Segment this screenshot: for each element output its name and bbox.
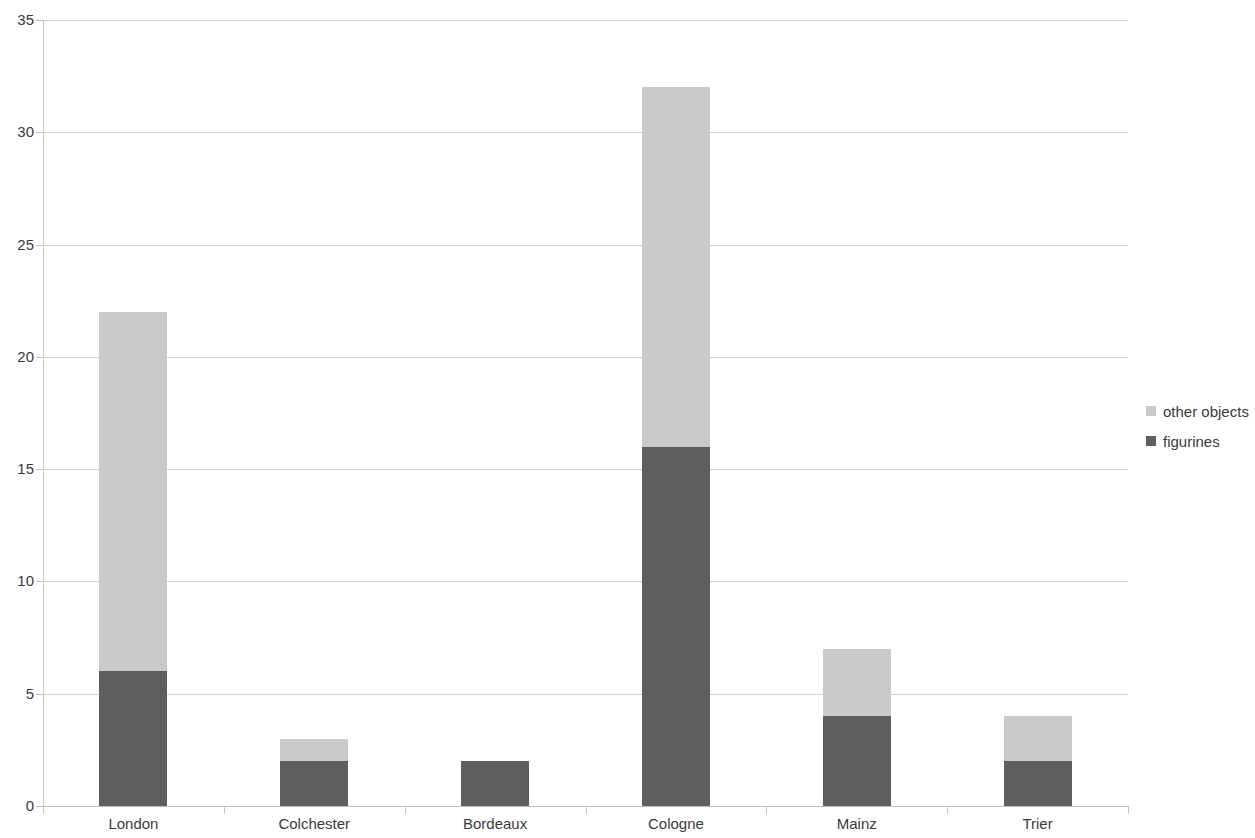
legend-item: other objects [1146, 396, 1254, 426]
bar-segment-figurines [99, 671, 167, 806]
y-axis-tick-label: 10 [17, 573, 34, 588]
bar-segment-other-objects [99, 312, 167, 671]
x-axis-tick-mark [43, 806, 44, 814]
bar-segment-other-objects [1004, 716, 1072, 761]
bar-stack [823, 20, 891, 806]
bar-segment-other-objects [823, 649, 891, 716]
bar-group [823, 20, 891, 806]
y-axis-tick-mark [36, 20, 43, 21]
bar-stack [280, 20, 348, 806]
y-axis-tick-label: 35 [17, 12, 34, 27]
x-axis-tick-mark [947, 806, 948, 814]
plot-area [43, 20, 1128, 806]
bar-segment-figurines [823, 716, 891, 806]
bar-stack [99, 20, 167, 806]
category-label: Cologne [596, 816, 756, 831]
bar-segment-other-objects [642, 87, 710, 446]
category-label: Bordeaux [415, 816, 575, 831]
y-axis-tick-label: 25 [17, 237, 34, 252]
bar-segment-figurines [642, 447, 710, 806]
bar-group [99, 20, 167, 806]
y-axis-tick-mark [36, 132, 43, 133]
bar-segment-figurines [461, 761, 529, 806]
bar-segment-other-objects [280, 739, 348, 761]
y-axis-tick-mark [36, 469, 43, 470]
y-axis-tick-mark [36, 357, 43, 358]
y-axis-tick-label: 0 [26, 798, 34, 813]
y-axis-tick-mark [36, 581, 43, 582]
x-axis-tick-mark [586, 806, 587, 814]
legend-item: figurines [1146, 426, 1254, 456]
bar-group [1004, 20, 1072, 806]
y-axis-tick-label: 20 [17, 349, 34, 364]
y-axis-tick-label: 5 [26, 686, 34, 701]
x-axis-tick-mark [766, 806, 767, 814]
y-axis-tick-label: 30 [17, 124, 34, 139]
y-axis-tick-label: 15 [17, 461, 34, 476]
bar-group [461, 20, 529, 806]
category-label: Colchester [234, 816, 394, 831]
stacked-bar-chart: 05101520253035 LondonColchesterBordeauxC… [0, 0, 1255, 838]
legend-label: other objects [1163, 404, 1249, 419]
category-label: Mainz [777, 816, 937, 831]
bar-stack [461, 20, 529, 806]
bar-stack [1004, 20, 1072, 806]
x-axis-tick-mark [224, 806, 225, 814]
y-axis-tick-mark [36, 245, 43, 246]
y-axis-tick-mark [36, 694, 43, 695]
y-axis-tick-labels: 05101520253035 [0, 0, 34, 838]
legend-swatch-icon [1146, 406, 1156, 416]
chart-legend: other objectsfigurines [1146, 396, 1254, 456]
bar-segment-figurines [280, 761, 348, 806]
bar-group [642, 20, 710, 806]
category-label: Trier [958, 816, 1118, 831]
category-label: London [53, 816, 213, 831]
bar-segment-figurines [1004, 761, 1072, 806]
x-axis-tick-mark [405, 806, 406, 814]
x-axis-tick-mark [1128, 806, 1129, 814]
bar-stack [642, 20, 710, 806]
legend-swatch-icon [1146, 436, 1156, 446]
bar-group [280, 20, 348, 806]
legend-label: figurines [1163, 434, 1220, 449]
y-axis-tick-mark [36, 806, 43, 807]
